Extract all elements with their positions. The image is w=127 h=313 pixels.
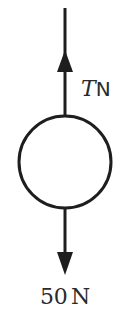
- tension-arrowhead-icon: [57, 50, 73, 72]
- free-body-diagram: TN 50N: [0, 0, 127, 313]
- weight-arrowhead-icon: [57, 252, 73, 275]
- tension-label: TN: [81, 76, 111, 101]
- body-circle: [19, 116, 111, 208]
- weight-label: 50N: [40, 284, 90, 309]
